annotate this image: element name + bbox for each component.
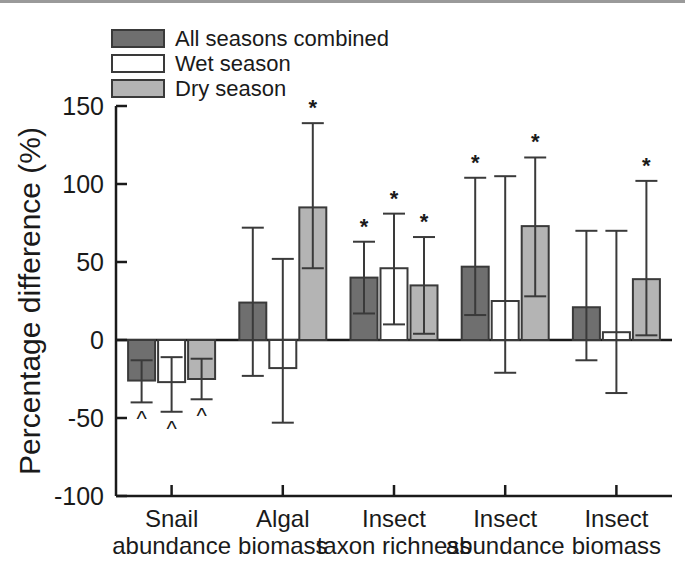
x-tick-label-3-0: Insect xyxy=(473,505,537,532)
significance-marker-4-2: * xyxy=(642,153,651,178)
negative-marker-0-1: ^ xyxy=(166,416,177,441)
page-top-rule xyxy=(0,0,685,3)
figure-panel: All seasons combinedWet seasonDry season… xyxy=(0,0,685,573)
significance-marker-2-2: * xyxy=(420,209,429,234)
y-tick-label-0: 0 xyxy=(90,326,104,354)
legend-label-wet_season: Wet season xyxy=(175,51,291,76)
y-tick-label-150: 150 xyxy=(62,92,104,120)
legend-swatch-wet_season xyxy=(112,55,164,72)
bars-layer xyxy=(128,123,660,423)
significance-marker-3-0: * xyxy=(471,150,480,175)
x-tick-label-1-0: Algal xyxy=(256,505,309,532)
x-tick-label-0-1: abundance xyxy=(112,532,231,559)
x-tick-label-4-1: biomass xyxy=(572,532,661,559)
y-tick-label-100: 100 xyxy=(62,170,104,198)
negative-marker-0-0: ^ xyxy=(136,406,147,431)
bar-chart: All seasons combinedWet seasonDry season… xyxy=(0,0,685,573)
x-tick-label-1-1: biomass xyxy=(238,532,327,559)
significance-marker-2-1: * xyxy=(390,186,399,211)
x-tick-label-3-1: abundance xyxy=(446,532,565,559)
y-tick-label--100: -100 xyxy=(54,482,104,510)
legend: All seasons combinedWet seasonDry season xyxy=(112,26,389,101)
axes: 150100500-50-100Percentage difference (%… xyxy=(13,92,672,510)
x-tick-label-4-0: Insect xyxy=(584,505,648,532)
legend-label-all_seasons: All seasons combined xyxy=(175,26,389,51)
significance-marker-2-0: * xyxy=(360,214,369,239)
significance-marker-3-2: * xyxy=(531,129,540,154)
error-bar-4-1 xyxy=(605,231,627,393)
x-tick-label-0-0: Snail xyxy=(145,505,198,532)
negative-marker-0-2: ^ xyxy=(196,403,207,428)
significance-marker-1-2: * xyxy=(309,95,318,120)
legend-label-dry_season: Dry season xyxy=(175,76,286,101)
y-tick-label-50: 50 xyxy=(76,248,104,276)
x-tick-label-2-0: Insect xyxy=(362,505,426,532)
error-bar-3-1 xyxy=(494,176,516,373)
y-tick-label--50: -50 xyxy=(68,404,104,432)
legend-swatch-all_seasons xyxy=(112,30,164,47)
y-axis-title: Percentage difference (%) xyxy=(13,127,46,475)
legend-swatch-dry_season xyxy=(112,80,164,97)
